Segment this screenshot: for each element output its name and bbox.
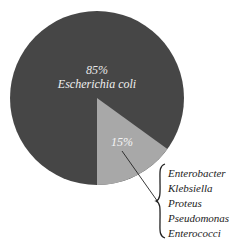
minor-percent-label: 15%: [111, 135, 133, 149]
list-item: Klebsiella: [167, 182, 213, 194]
list-item: Pseudomonas: [167, 212, 229, 224]
curly-brace-icon: [156, 164, 165, 238]
list-item: Enterobacter: [167, 167, 226, 179]
major-percent-label: 85%: [86, 63, 108, 77]
pie-chart: 85% Escherichia coli 15% Enterobacter Kl…: [0, 0, 238, 245]
list-item: Enterococci: [167, 227, 221, 239]
list-item: Proteus: [167, 197, 202, 209]
major-name-label: Escherichia coli: [57, 77, 136, 91]
